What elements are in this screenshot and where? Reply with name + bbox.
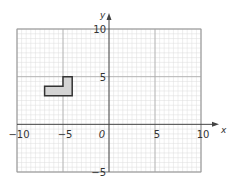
y-tick-label: 10	[93, 24, 106, 35]
x-tick-label: −10	[8, 129, 29, 140]
origin-label: 0	[99, 129, 105, 140]
x-tick-label: −5	[58, 129, 73, 140]
y-tick-label: −5	[91, 167, 106, 178]
y-tick-label: 5	[100, 72, 106, 83]
x-axis-arrow-icon	[212, 122, 219, 127]
y-axis-arrow-icon	[107, 13, 112, 20]
y-axis-label: y	[99, 10, 106, 20]
x-tick-label: 10	[197, 129, 210, 140]
x-axis-label: x	[220, 125, 227, 135]
coordinate-plane: −10−5510105−50xy	[0, 0, 230, 187]
x-tick-label: 5	[154, 129, 160, 140]
coordinate-grid-diagram: −10−5510105−50xy	[0, 0, 230, 187]
